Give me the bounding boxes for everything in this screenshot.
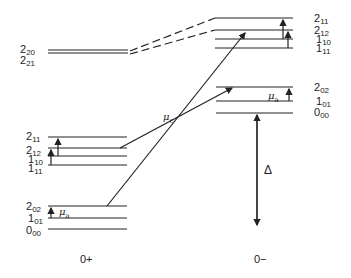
level-label-0-00-right: 000 bbox=[314, 107, 329, 121]
level-label-2-02-right: 202 bbox=[314, 82, 329, 96]
level-label-2-21: 221 bbox=[20, 55, 35, 69]
column-label-0-plus: 0+ bbox=[80, 254, 93, 265]
mu-a-left-label: μa bbox=[59, 206, 70, 220]
level-label-0-00-left: 000 bbox=[26, 225, 41, 239]
energy-level-diagram bbox=[0, 0, 351, 278]
mu-a-right-label: μa bbox=[268, 90, 279, 104]
mu-c-label: μc bbox=[163, 111, 173, 125]
column-label-0-minus: 0− bbox=[254, 254, 267, 265]
delta-label: Δ bbox=[264, 165, 272, 176]
level-label-1-11-left: 111 bbox=[28, 163, 42, 177]
level-label-2-11-left: 211 bbox=[26, 131, 40, 145]
level-label-1-11-right: 111 bbox=[316, 43, 330, 57]
